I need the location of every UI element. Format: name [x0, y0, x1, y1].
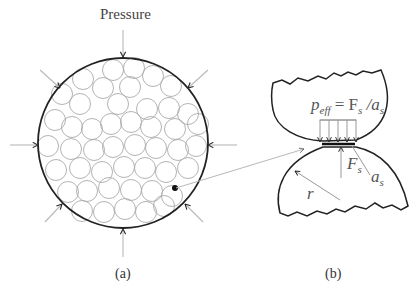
force-label: Fs	[347, 154, 362, 175]
pressure-arrow	[188, 70, 208, 88]
grain	[84, 140, 105, 161]
grain	[58, 182, 79, 203]
caption-b: (b)	[325, 266, 341, 282]
grain	[82, 119, 103, 140]
effective-pressure-arrows	[320, 120, 356, 142]
pressure-arrows	[10, 30, 237, 257]
radius-label: r	[307, 184, 314, 204]
lower-grain-outline	[278, 147, 408, 216]
pressure-arrow	[40, 70, 60, 88]
grain	[70, 94, 91, 115]
grain	[92, 162, 113, 183]
grain	[146, 138, 167, 159]
grain	[121, 180, 142, 201]
grain	[108, 94, 129, 115]
grain	[38, 136, 59, 157]
grain	[52, 84, 73, 105]
grain	[156, 162, 177, 183]
pressure-label: Pressure	[100, 6, 151, 23]
grain	[168, 140, 189, 161]
pressure-arrow	[185, 204, 203, 222]
grain	[103, 137, 124, 158]
grain	[143, 66, 164, 87]
grain	[61, 139, 82, 160]
grain	[45, 110, 66, 131]
grain	[142, 181, 163, 202]
grain	[159, 98, 180, 119]
grain-contact-diagram	[0, 0, 417, 301]
radius-arrow	[295, 171, 340, 200]
grain	[186, 136, 207, 157]
grain	[103, 60, 124, 81]
zoom-connector-line	[176, 149, 304, 188]
grain	[101, 114, 122, 135]
caption-a: (a)	[115, 266, 131, 282]
grain	[114, 157, 135, 178]
grain	[115, 199, 136, 220]
effective-pressure-formula: peff = Fs /as	[311, 95, 384, 116]
grain	[165, 119, 186, 140]
area-label: as	[371, 167, 384, 188]
grain	[125, 135, 146, 156]
grain	[162, 186, 183, 207]
grain	[178, 158, 199, 179]
pressure-arrow	[45, 204, 62, 222]
grain	[94, 202, 115, 223]
grain	[70, 158, 91, 179]
grain	[46, 160, 67, 181]
grain	[93, 78, 114, 99]
grain	[77, 181, 98, 202]
grain	[62, 117, 83, 138]
grain	[141, 117, 162, 138]
grain	[121, 112, 142, 133]
grain	[135, 158, 156, 179]
grain	[99, 178, 120, 199]
